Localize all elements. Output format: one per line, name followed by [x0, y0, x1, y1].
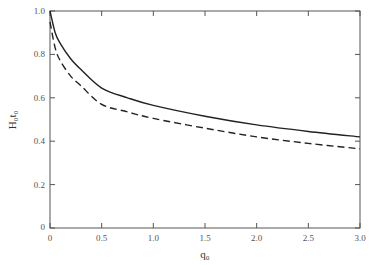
x-axis-ticks: 00.51.01.52.02.53.0: [48, 11, 366, 243]
x-tick-label: 0.5: [96, 233, 108, 243]
y-tick-label: 0.8: [34, 49, 46, 59]
y-tick-label: 1.0: [34, 6, 46, 16]
x-tick-label: 0: [48, 233, 53, 243]
y-tick-label: 0.4: [34, 136, 46, 146]
x-axis-title: q₀: [200, 248, 210, 260]
line-chart: 00.51.01.52.02.53.0 00.20.40.60.81.0 q₀ …: [0, 0, 371, 265]
data-series: [50, 11, 360, 149]
series-solid-line: [50, 11, 360, 137]
x-tick-label: 2.5: [303, 233, 315, 243]
x-tick-label: 2.0: [251, 233, 263, 243]
y-tick-label: 0.6: [34, 93, 46, 103]
y-tick-label: 0: [41, 222, 46, 232]
plot-frame: [50, 11, 360, 228]
x-tick-label: 1.0: [148, 233, 160, 243]
y-axis-ticks: 00.20.40.60.81.0: [34, 6, 360, 232]
y-tick-label: 0.2: [34, 180, 45, 190]
x-tick-label: 3.0: [354, 233, 366, 243]
plot-border: [50, 11, 360, 228]
y-axis-title: H₀t₀: [6, 111, 18, 130]
series-dashed-line: [50, 22, 360, 149]
x-tick-label: 1.5: [199, 233, 211, 243]
